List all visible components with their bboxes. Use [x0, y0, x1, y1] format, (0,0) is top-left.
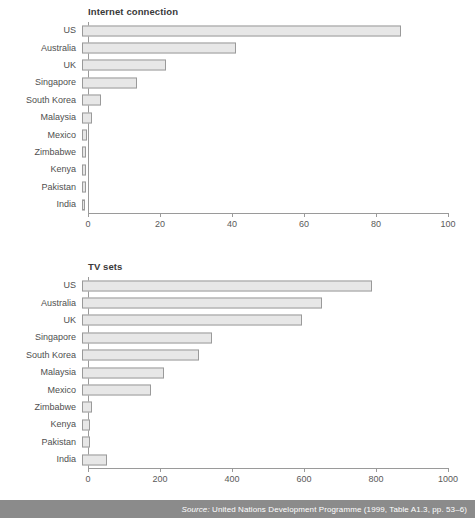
x-axis-tick [160, 213, 161, 217]
bar-track [82, 364, 475, 381]
bar [82, 60, 166, 71]
category-label: Malaysia [0, 368, 82, 377]
source-band: Source: United Nations Development Progr… [0, 500, 475, 518]
x-axis-tick [88, 468, 89, 472]
bar-row: Zimbabwe [0, 399, 475, 416]
category-label: Singapore [0, 333, 82, 342]
bar-track [82, 312, 475, 329]
bar [82, 332, 212, 343]
bar-row: Pakistan [0, 179, 475, 196]
chart-tv-sets: TV sets USAustraliaUKSingaporeSouth Kore… [0, 255, 475, 500]
bar-row: UK [0, 312, 475, 329]
x-axis-line-tv [88, 468, 448, 469]
bar-track [82, 57, 475, 74]
bar-row: South Korea [0, 92, 475, 109]
bar [82, 454, 107, 465]
bar [82, 25, 401, 36]
category-label: India [0, 455, 82, 464]
bar-row: Zimbabwe [0, 144, 475, 161]
category-label: Mexico [0, 386, 82, 395]
bar-track [82, 92, 475, 109]
category-label: South Korea [0, 351, 82, 360]
bar-track [82, 416, 475, 433]
x-axis-tick [232, 468, 233, 472]
chart-title-tv: TV sets [88, 261, 123, 272]
bar-row: Malaysia [0, 109, 475, 126]
bar [82, 182, 86, 193]
category-label: South Korea [0, 96, 82, 105]
bar [82, 315, 302, 326]
figure-page: Internet connection USAustraliaUKSingapo… [0, 0, 475, 523]
bar [82, 437, 90, 448]
bar-row: US [0, 277, 475, 294]
bar [82, 164, 86, 175]
category-label: US [0, 281, 82, 290]
x-axis-tick-label: 100 [440, 219, 455, 229]
bar [82, 298, 322, 309]
x-axis-tick-label: 80 [371, 219, 381, 229]
bar [82, 280, 372, 291]
source-label: Source: [181, 505, 209, 514]
x-axis-tick-label: 60 [299, 219, 309, 229]
x-axis-tick-label: 800 [368, 474, 383, 484]
bar-track [82, 22, 475, 39]
category-label: UK [0, 316, 82, 325]
bar-row: Mexico [0, 381, 475, 398]
bar-track [82, 39, 475, 56]
bar-track [82, 179, 475, 196]
x-axis-tick [376, 468, 377, 472]
x-axis-internet: 020406080100 [88, 213, 448, 235]
x-axis-tick-label: 20 [155, 219, 165, 229]
bar-track [82, 196, 475, 213]
category-label: Pakistan [0, 438, 82, 447]
chart-internet-connection: Internet connection USAustraliaUKSingapo… [0, 0, 475, 248]
x-axis-tick [448, 468, 449, 472]
category-label: Zimbabwe [0, 403, 82, 412]
bar-track [82, 126, 475, 143]
bar-track [82, 381, 475, 398]
plot-area-tv: USAustraliaUKSingaporeSouth KoreaMalaysi… [0, 277, 475, 490]
x-axis-tick-label: 0 [85, 474, 90, 484]
category-label: US [0, 26, 82, 35]
category-label: UK [0, 61, 82, 70]
bar-row: India [0, 451, 475, 468]
category-label: Malaysia [0, 113, 82, 122]
bar-rows-internet: USAustraliaUKSingaporeSouth KoreaMalaysi… [0, 22, 475, 213]
x-axis-tick [304, 468, 305, 472]
bar [82, 367, 164, 378]
bar-track [82, 109, 475, 126]
bar-row: Malaysia [0, 364, 475, 381]
x-axis-tick [376, 213, 377, 217]
bar [82, 112, 92, 123]
bar-track [82, 74, 475, 91]
x-axis-tick-label: 400 [224, 474, 239, 484]
category-label: Kenya [0, 165, 82, 174]
x-axis-tv: 02004006008001000 [88, 468, 448, 490]
bar-track [82, 329, 475, 346]
source-citation: United Nations Development Programme (19… [210, 505, 467, 514]
bar-track [82, 144, 475, 161]
category-label: Australia [0, 44, 82, 53]
bar [82, 402, 92, 413]
bar-track [82, 399, 475, 416]
bar-rows-tv: USAustraliaUKSingaporeSouth KoreaMalaysi… [0, 277, 475, 468]
bar-row: India [0, 196, 475, 213]
bar [82, 77, 137, 88]
bar-track [82, 294, 475, 311]
bar [82, 43, 236, 54]
bar-row: Kenya [0, 161, 475, 178]
bar-row: Singapore [0, 329, 475, 346]
category-label: Singapore [0, 78, 82, 87]
bar-row: Australia [0, 39, 475, 56]
x-axis-tick-label: 0 [85, 219, 90, 229]
bar [82, 199, 85, 210]
bar-row: Mexico [0, 126, 475, 143]
x-axis-line-internet [88, 213, 448, 214]
bar [82, 385, 151, 396]
bar-row: Australia [0, 294, 475, 311]
category-label: Australia [0, 299, 82, 308]
x-axis-tick-label: 40 [227, 219, 237, 229]
bar-row: US [0, 22, 475, 39]
category-label: Kenya [0, 420, 82, 429]
plot-area-internet: USAustraliaUKSingaporeSouth KoreaMalaysi… [0, 22, 475, 235]
